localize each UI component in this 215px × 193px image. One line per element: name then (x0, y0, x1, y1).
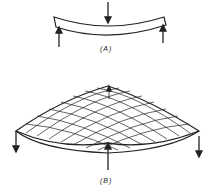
plate-outline (16, 86, 199, 145)
arrowhead-down (196, 151, 202, 157)
arrowhead-down (105, 17, 111, 23)
panel-b-label: (B) (100, 177, 112, 184)
arrowhead-down (13, 146, 19, 152)
panel-b-arrows (13, 86, 202, 170)
panel-a-arrows (56, 2, 166, 47)
panel-a-label: (A) (100, 45, 112, 52)
diagram-canvas (0, 0, 215, 193)
